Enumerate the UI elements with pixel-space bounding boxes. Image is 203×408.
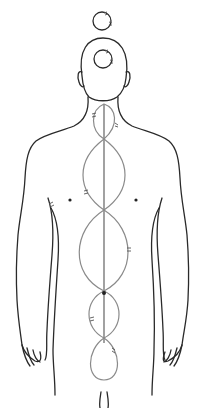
crown-circle-in-head — [94, 50, 113, 68]
flow-arrow-icon — [90, 317, 94, 321]
body-outline — [16, 38, 188, 408]
flow-arrow-icon — [115, 123, 118, 127]
base-loop — [91, 338, 118, 380]
spine-node — [102, 291, 106, 295]
right-shoulder-blade-point — [134, 198, 137, 201]
diagram-canvas — [0, 0, 203, 408]
left-shoulder-blade-point — [68, 198, 71, 201]
crown-circle-above-head — [93, 12, 112, 30]
body-meridian-diagram — [0, 0, 203, 408]
